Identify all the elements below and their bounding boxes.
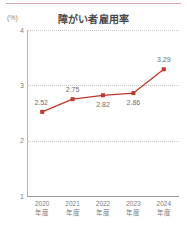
data-point-label: 2.82 — [96, 101, 110, 108]
top-divider-rule — [6, 3, 181, 4]
y-axis-tick-labels: 4321 — [0, 30, 24, 196]
data-point-label: 3.29 — [157, 56, 171, 63]
x-axis-baseline — [27, 196, 179, 197]
x-axis-tick: 2021 年度 — [56, 200, 90, 218]
data-point-marker — [131, 91, 135, 95]
y-axis-unit-label: (%) — [7, 14, 18, 21]
y-axis-tick: 4 — [2, 27, 24, 34]
x-axis-tick: 2022 年度 — [86, 200, 120, 218]
x-axis-tick: 2024 年度 — [147, 200, 181, 218]
data-point-label: 2.86 — [127, 99, 141, 106]
y-axis-tick: 3 — [2, 82, 24, 89]
x-axis-tick: 2020 年度 — [25, 200, 59, 218]
data-point-marker — [71, 97, 75, 101]
data-point-label: 2.52 — [34, 99, 48, 106]
x-axis-tick: 2023 年度 — [116, 200, 150, 218]
x-axis-tick-labels: 2020 年度2021 年度2022 年度2023 年度2024 年度 — [27, 200, 179, 226]
data-point-marker — [162, 67, 166, 71]
data-point-marker — [40, 110, 44, 114]
data-point-marker — [101, 93, 105, 97]
chart-title: 障がい者雇用率 — [0, 11, 187, 26]
plot-area: 2.522.752.822.863.29 — [27, 30, 179, 196]
y-axis-tick: 1 — [2, 193, 24, 200]
y-axis-tick: 2 — [2, 137, 24, 144]
data-point-label: 2.75 — [66, 86, 80, 93]
line-series — [27, 30, 179, 196]
